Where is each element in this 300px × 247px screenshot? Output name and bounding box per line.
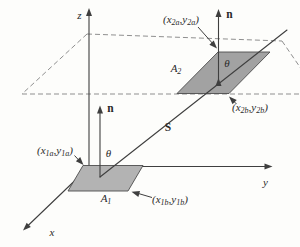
label-area-a1: A1 (100, 192, 112, 207)
label-theta-a1: θ (106, 147, 112, 159)
dashed-plane-right-edge (282, 41, 300, 73)
area-a1-polygon (68, 166, 143, 192)
projected-area-diagram: z y x n n S θ θ A1 A2 (x1a,y1a) (x1b,y1b… (0, 0, 300, 247)
vector-s-line (100, 30, 287, 177)
label-point-x2a-y2a: (x2a,y2a) (163, 13, 199, 28)
label-z-axis: z (76, 9, 82, 21)
coordinate-axes (21, 8, 273, 233)
pointer-x2a-line (198, 27, 214, 45)
dashed-plane-top-edge (87, 34, 282, 41)
label-point-x1a-y1a: (x1a,y1a) (37, 144, 73, 159)
label-y-axis: y (262, 176, 268, 188)
label-x-axis: x (49, 226, 55, 238)
label-theta-a2: θ (224, 57, 230, 69)
pointer-x1b-arrowhead (131, 189, 140, 197)
dashed-plane-left-edge (22, 34, 87, 94)
label-normal-a2: n (226, 8, 233, 20)
label-area-a2: A2 (170, 62, 182, 77)
z-axis-arrowhead (86, 8, 92, 16)
normal-a2-arrowhead (216, 9, 222, 17)
y-axis-arrowhead (265, 164, 273, 170)
label-point-x1b-y1b: (x1b,y1b) (152, 193, 188, 208)
label-vector-s: S (165, 121, 171, 133)
vector-s (100, 30, 287, 177)
label-point-x2b-y2b: (x2b,y2b) (232, 101, 268, 116)
normal-a1-arrowhead (97, 106, 103, 114)
label-normal-a1: n (107, 102, 114, 114)
